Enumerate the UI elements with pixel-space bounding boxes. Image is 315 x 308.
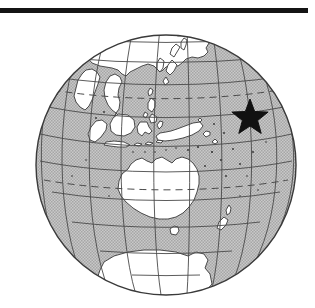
globe-figure: orthographic-globe-map Australia / South… (0, 0, 315, 308)
land-borneo (110, 114, 135, 136)
globe-svg (0, 0, 315, 308)
land-west-limb-sliver (37, 98, 47, 117)
globe-container (0, 0, 315, 308)
